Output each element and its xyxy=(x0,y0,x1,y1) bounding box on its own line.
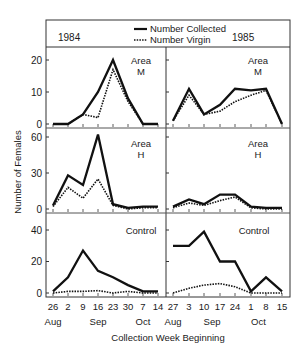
panel-label-area: Area xyxy=(248,138,269,149)
x-tick-label: 3 xyxy=(186,301,191,312)
series-number-virgin xyxy=(53,179,158,209)
panel-label-m: M xyxy=(137,66,145,77)
legend-label-virgin: Number Virgin xyxy=(150,34,211,45)
x-tick-label: 24 xyxy=(230,301,241,312)
y-tick-label: 0 xyxy=(36,288,42,299)
x-tick-label: 16 xyxy=(93,301,104,312)
x-tick-label: 23 xyxy=(108,301,119,312)
x-axis-title: Collection Week Beginning xyxy=(111,332,224,343)
x-tick-label: 26 xyxy=(48,301,59,312)
x-month-label: Oct xyxy=(251,316,266,327)
legend-label-collected: Number Collected xyxy=(150,23,226,34)
y-axis-title: Number of Females xyxy=(12,130,23,214)
series-number-collected xyxy=(173,232,282,292)
x-month-label: Oct xyxy=(136,316,151,327)
panel-label-h: H xyxy=(255,149,262,160)
series-number-collected xyxy=(173,195,282,208)
y-tick-label: 20 xyxy=(31,256,43,267)
panel-label-area: Area xyxy=(131,55,152,66)
y-tick-label: 0 xyxy=(36,119,42,130)
y-tick-label: 20 xyxy=(31,55,43,66)
y-tick-label: 0 xyxy=(36,204,42,215)
x-tick-label: 17 xyxy=(215,301,226,312)
panel-label-area: Area xyxy=(248,55,269,66)
y-tick-label: 30 xyxy=(31,168,43,179)
chart-figure: 1984 1985 Number Collected Number Virgin… xyxy=(0,0,305,361)
x-tick-label: 10 xyxy=(199,301,210,312)
x-tick-label: 14 xyxy=(153,301,164,312)
year-label-1984: 1984 xyxy=(58,32,81,43)
x-month-label: Aug xyxy=(45,316,62,327)
x-tick-label: 2 xyxy=(65,301,70,312)
y-tick-label: 60 xyxy=(31,132,43,143)
panel-label-h: H xyxy=(138,149,145,160)
y-tick-label: 10 xyxy=(31,87,43,98)
x-month-label: Sep xyxy=(90,316,107,327)
x-tick-label: 15 xyxy=(277,301,288,312)
x-month-label: Sep xyxy=(204,316,221,327)
year-label-1985: 1985 xyxy=(232,32,255,43)
panel-label-area: Area xyxy=(131,138,152,149)
y-tick-label: 40 xyxy=(31,225,43,236)
chart-plot-layer: 0102003060020402629162330714AugSepOct273… xyxy=(31,55,287,328)
x-tick-label: 8 xyxy=(263,301,268,312)
x-month-label: Aug xyxy=(165,316,182,327)
panel-label-control: Control xyxy=(239,225,270,236)
series-number-virgin xyxy=(173,284,282,293)
x-tick-label: 9 xyxy=(80,301,85,312)
panel-label-control: Control xyxy=(126,225,157,236)
x-tick-label: 30 xyxy=(123,301,134,312)
x-tick-label: 1 xyxy=(248,301,253,312)
x-tick-label: 7 xyxy=(140,301,145,312)
panel-label-m: M xyxy=(254,66,262,77)
series-number-collected xyxy=(53,251,158,292)
x-tick-label: 27 xyxy=(168,301,179,312)
